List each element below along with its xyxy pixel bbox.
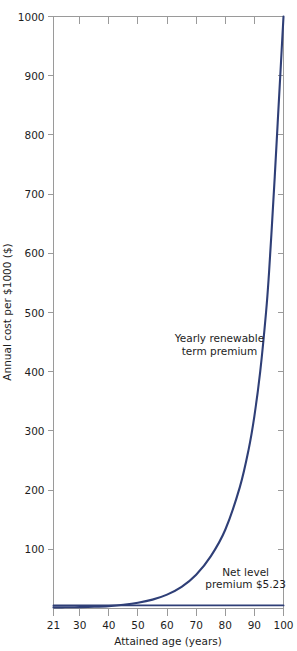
y-tick-label: 900: [24, 70, 44, 82]
plot-area-border: [54, 17, 284, 609]
series-layer: [54, 17, 284, 608]
x-tick-label: 50: [131, 619, 144, 631]
x-tick-label: 40: [102, 619, 115, 631]
x-tick-label: 100: [273, 619, 293, 631]
x-tick-label: 90: [248, 619, 261, 631]
y-tick-label: 800: [24, 129, 44, 141]
y-tick-label: 100: [24, 543, 44, 555]
x-tick-label: 80: [219, 619, 232, 631]
x-tick-label: 70: [189, 619, 202, 631]
y-tick-label: 400: [24, 366, 44, 378]
x-tick-label: 21: [47, 619, 60, 631]
annotation-net-level-label: Net levelpremium $5.23: [205, 566, 286, 591]
x-axis-tick-labels: 2130405060708090100: [47, 619, 294, 631]
y-tick-label: 200: [24, 484, 44, 496]
series-line-yearly-renewable-term: [54, 17, 284, 608]
y-axis-tick-labels: 1002003004005006007008009001000: [18, 11, 45, 556]
x-axis-title: Attained age (years): [114, 635, 222, 647]
premium-comparison-chart: 2130405060708090100 10020030040050060070…: [0, 0, 297, 651]
annotation-yrt-label: Yearly renewableterm premium: [174, 332, 264, 357]
y-tick-label: 1000: [18, 11, 45, 23]
x-axis-ticks: [54, 17, 284, 616]
y-tick-label: 500: [24, 307, 44, 319]
chart-container: 2130405060708090100 10020030040050060070…: [0, 0, 297, 651]
x-tick-label: 60: [160, 619, 173, 631]
x-tick-label: 30: [73, 619, 86, 631]
plot-frame: [54, 17, 284, 609]
chart-annotations: Yearly renewableterm premiumNet levelpre…: [174, 332, 286, 590]
y-tick-label: 600: [24, 247, 44, 259]
y-axis-title: Annual cost per $1000 ($): [1, 243, 13, 380]
y-tick-label: 300: [24, 425, 44, 437]
y-axis-ticks: [48, 17, 284, 550]
y-tick-label: 700: [24, 188, 44, 200]
